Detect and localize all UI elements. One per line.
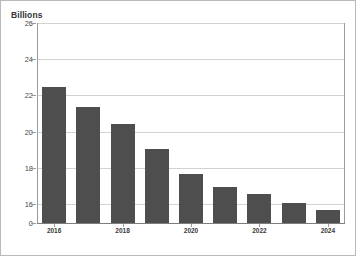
y-axis: 2624222018160 (1, 23, 37, 224)
x-axis-tick-mark (191, 224, 192, 227)
y-axis-tick-mark (31, 23, 36, 24)
x-axis-labels: 20162018202020222024 (37, 227, 345, 241)
y-axis-tick-mark (31, 95, 36, 96)
y-axis-tick-mark (31, 132, 36, 133)
bar[interactable] (213, 187, 237, 224)
plot-area (37, 23, 345, 224)
bar[interactable] (76, 107, 100, 224)
x-axis-tick-label: 2018 (115, 227, 129, 234)
y-axis-tick-mark (31, 168, 36, 169)
x-axis-tick-label: 2022 (252, 227, 266, 234)
bar[interactable] (247, 194, 271, 224)
x-axis-tick-label: 2020 (184, 227, 198, 234)
y-axis-tick-mark (31, 204, 36, 205)
x-axis-tick-mark (328, 224, 329, 227)
y-axis-tick-mark (31, 59, 36, 60)
x-axis-tick-label: 2016 (47, 227, 61, 234)
x-axis-tick-mark (259, 224, 260, 227)
x-axis-tick-mark (123, 224, 124, 227)
bar[interactable] (282, 203, 306, 224)
bar[interactable] (316, 210, 340, 224)
y-axis-tick-mark (31, 223, 36, 224)
bar[interactable] (179, 174, 203, 224)
bar[interactable] (145, 149, 169, 224)
bar[interactable] (111, 124, 135, 224)
bar-series (37, 23, 345, 224)
chart-frame: Billions 2624222018160 20162018202020222… (0, 0, 356, 256)
x-axis-tick-label: 2024 (321, 227, 335, 234)
bar[interactable] (42, 87, 66, 224)
x-axis-tick-mark (54, 224, 55, 227)
